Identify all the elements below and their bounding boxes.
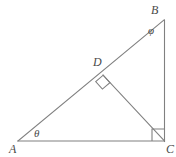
- angle-label-theta: θ: [34, 128, 39, 139]
- vertex-label-b: B: [151, 4, 158, 16]
- altitude-segment-dc: [103, 75, 165, 141]
- vertex-label-a: A: [9, 143, 16, 155]
- hypotenuse-segment-ab: [18, 20, 164, 141]
- geometry-figure: A B C D θ φ: [0, 0, 176, 157]
- angle-label-phi: φ: [148, 25, 154, 36]
- vertex-label-c: C: [166, 143, 174, 155]
- right-angle-marker-d-icon: [96, 75, 110, 89]
- vertex-label-d: D: [93, 56, 102, 68]
